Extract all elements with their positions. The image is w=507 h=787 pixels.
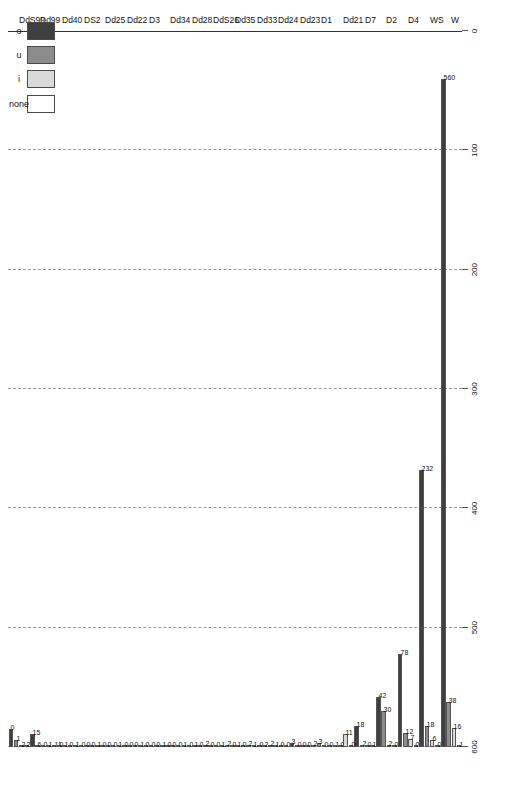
bar-slot: 0: [89, 31, 94, 747]
value-axis-tick-label: 200: [470, 263, 479, 276]
bar[interactable]: [376, 697, 381, 747]
category-axis-label: Dd34: [170, 15, 190, 25]
category-group: 2321860WS: [419, 31, 441, 747]
value-axis-tick-label: 300: [470, 382, 479, 395]
legend-swatch: [27, 22, 55, 40]
bar-slot: 0: [170, 31, 175, 747]
bar-slot: 0: [127, 31, 132, 747]
bar-slot: 0: [241, 31, 246, 747]
bar-slot: 12: [403, 31, 408, 747]
bar-slot: 2: [225, 31, 230, 747]
legend-swatch: [27, 46, 55, 64]
category-group: 10110Dd21: [332, 31, 354, 747]
bar-slot: 0: [9, 31, 14, 747]
bar[interactable]: [398, 654, 403, 747]
bar-slot: 0: [197, 31, 202, 747]
bar-slot: 0: [165, 31, 170, 747]
category-axis-label: D7: [365, 15, 376, 25]
bar-slot: 2: [24, 31, 29, 747]
category-axis-label: Dd21: [343, 15, 363, 25]
bar-value-label: 0: [351, 741, 355, 748]
bar-slot: 1: [252, 31, 257, 747]
bar-slot: 0: [149, 31, 154, 747]
category-axis-label: WS: [430, 15, 444, 25]
bar[interactable]: [441, 79, 446, 747]
bar-value-label: 0: [135, 741, 139, 748]
value-axis-tick-label: 100: [470, 144, 479, 157]
category-axis-label: Dd23: [300, 15, 320, 25]
bar[interactable]: [446, 702, 451, 747]
bar-slot: 0: [414, 31, 419, 747]
category-group: 56038161W: [440, 31, 462, 747]
bar-slot: 0: [208, 31, 213, 747]
bar-slot: 1: [273, 31, 278, 747]
bar-slot: 2: [387, 31, 392, 747]
category-group: 2102Dd33: [246, 31, 268, 747]
bar[interactable]: [425, 726, 430, 747]
category-group: 1000Dd22: [116, 31, 138, 747]
category-axis-label: D3: [149, 15, 160, 25]
bar-slot: 11: [52, 31, 57, 747]
bar-value-label: 0: [308, 741, 312, 748]
category-group: 1000D3: [138, 31, 160, 747]
legend-label: o: [16, 26, 21, 36]
bar-slot: 0: [122, 31, 127, 747]
bar-slot: 0: [295, 31, 300, 747]
bar-slot: 2: [360, 31, 365, 747]
bar-slot: 0: [284, 31, 289, 747]
bar-slot: 0: [84, 31, 89, 747]
value-axis-tick-label: 500: [470, 621, 479, 634]
legend-item-none[interactable]: none: [14, 94, 55, 114]
bar-slot: 42: [376, 31, 381, 747]
bar-slot: 1: [46, 31, 51, 747]
bar-slot: 16: [452, 31, 457, 747]
bar-value-label: 1: [221, 741, 225, 748]
category-group: 423020D2: [376, 31, 398, 747]
value-axis: 0100200300400500600: [462, 31, 502, 747]
category-group: 1010Dd28: [181, 31, 203, 747]
bar-value-label: 0: [70, 741, 74, 748]
bar-value-label: 0: [416, 741, 420, 748]
bar-slot: 1: [457, 31, 462, 747]
legend-item-o[interactable]: o: [14, 22, 55, 40]
category-axis-label: D2: [386, 15, 397, 25]
value-axis-tick: [462, 149, 468, 150]
bar[interactable]: [30, 734, 35, 747]
bar-slot: 0: [305, 31, 310, 747]
bar-slot: 6: [35, 31, 40, 747]
category-group: 15601Dd99: [30, 31, 52, 747]
bar-slot: 2: [203, 31, 208, 747]
bar-slot: 560: [441, 31, 446, 747]
bar-value-label: 2: [265, 741, 269, 748]
legend-swatch: [27, 95, 55, 113]
legend-label: i: [18, 74, 20, 84]
category-axis-label: Dd33: [257, 15, 277, 25]
bar[interactable]: [403, 733, 408, 747]
bar-slot: 0: [257, 31, 262, 747]
bar-slot: 78: [398, 31, 403, 747]
category-group: 11010Dd40: [51, 31, 73, 747]
category-group: 1000Dd34: [159, 31, 181, 747]
bar-slot: 1: [182, 31, 187, 747]
bar-slot: 0: [300, 31, 305, 747]
bar-slot: 1: [219, 31, 224, 747]
category-group: 3000Dd23: [289, 31, 311, 747]
bar[interactable]: [419, 470, 424, 747]
bar-slot: 0: [57, 31, 62, 747]
value-axis-tick: [462, 507, 468, 508]
bar[interactable]: [381, 711, 386, 747]
bar[interactable]: [452, 728, 457, 747]
legend-item-i[interactable]: i: [14, 70, 55, 88]
legend-label: none: [9, 99, 29, 109]
plot-area: 56038161W2321860WS781270D4423020D218201D…: [8, 31, 462, 747]
bar[interactable]: [9, 729, 14, 747]
bar-slot: 2: [262, 31, 267, 747]
legend-label: u: [16, 50, 21, 60]
bar-slot: 0: [106, 31, 111, 747]
category-group: 781270D4: [397, 31, 419, 747]
legend-item-u[interactable]: u: [14, 46, 55, 64]
bar-slot: 0: [322, 31, 327, 747]
bar-slot: 1: [14, 31, 19, 747]
bar[interactable]: [343, 734, 348, 747]
value-axis-tick-label: 0: [470, 29, 479, 33]
